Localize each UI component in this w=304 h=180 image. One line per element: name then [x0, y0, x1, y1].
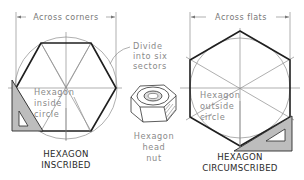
circumscribed-caption-line2: CIRCUMSCRIBED [202, 163, 278, 173]
nut-label-line3: nut [146, 153, 162, 163]
hexagon-outside-circle-label: Hexagon outside circle [200, 90, 241, 148]
circumscribed-caption-line1: HEXAGON [217, 152, 262, 162]
svg-text:sectors: sectors [133, 61, 167, 71]
svg-text:into six: into six [133, 51, 167, 61]
svg-text:Hexagon: Hexagon [34, 87, 75, 97]
svg-text:circle: circle [34, 109, 59, 119]
inscribed-caption-line2: INSCRIBED [41, 160, 91, 170]
across-corners-label: Across corners [33, 13, 99, 22]
inscribed-hexagon-figure: Across corners Hexagon inside circle [8, 12, 122, 170]
svg-text:outside: outside [200, 101, 234, 111]
inscribed-caption-line1: HEXAGON [43, 149, 88, 159]
nut-label-line2: head [143, 142, 166, 152]
circumscribed-hexagon-figure: Across flats Hexagon outside circle HEX [180, 12, 300, 173]
across-flats-label: Across flats [215, 13, 267, 22]
svg-text:Divide: Divide [133, 41, 163, 51]
hexagon-head-nut-illustration: Hexagon head nut [131, 85, 176, 163]
svg-text:inside: inside [34, 98, 62, 108]
divide-into-sectors-callout: Divide into six sectors [110, 41, 167, 71]
svg-text:Hexagon: Hexagon [200, 90, 241, 100]
nut-label-line1: Hexagon [134, 131, 175, 141]
drafting-triangle-right [234, 116, 292, 151]
hexagon-construction-diagram: Across corners Hexagon inside circle [0, 0, 304, 180]
